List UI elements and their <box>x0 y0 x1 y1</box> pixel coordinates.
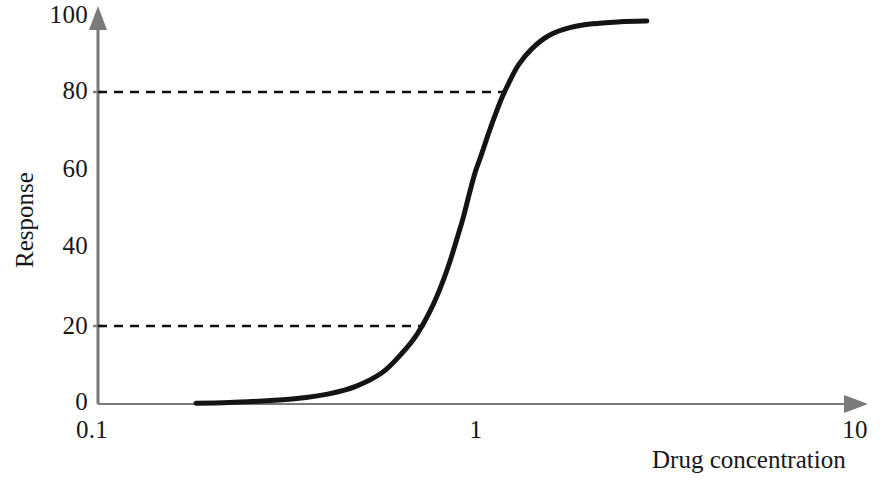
x-tick-label-10: 10 <box>826 417 884 442</box>
y-tick-label-40: 40 <box>36 233 88 258</box>
y-axis-title: Response <box>12 172 37 268</box>
x-tick-label-1: 1 <box>444 417 508 442</box>
dose-response-chart: 100 80 60 40 20 0 0.1 1 10 Response Drug… <box>0 0 885 480</box>
y-tick-label-20: 20 <box>36 313 88 338</box>
x-tick-label-0-1: 0.1 <box>56 417 128 442</box>
y-tick-label-80: 80 <box>36 78 88 103</box>
dose-response-curve <box>196 21 647 403</box>
y-tick-label-0: 0 <box>36 389 88 414</box>
x-axis-title: Drug concentration <box>652 447 846 472</box>
y-tick-label-100: 100 <box>36 2 88 27</box>
y-tick-label-60: 60 <box>36 156 88 181</box>
y-axis <box>89 6 107 404</box>
plot-area <box>0 0 885 480</box>
y-axis-arrow-icon <box>89 6 107 30</box>
x-axis-arrow-icon <box>844 395 868 413</box>
